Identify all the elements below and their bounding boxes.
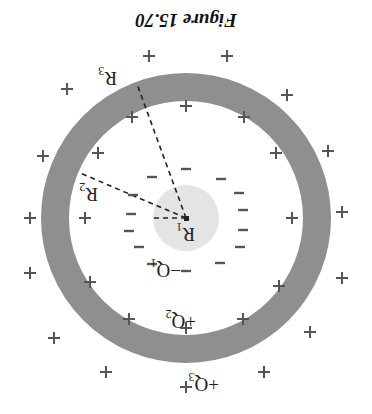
figure-diagram: Figure 15.70 <box>0 0 372 414</box>
label-q2: +Q2 <box>166 307 196 332</box>
label-q1: −Q1 <box>151 256 181 281</box>
center-dot <box>184 216 189 221</box>
label-r3: R3 <box>98 64 117 89</box>
label-q3: +Q3 <box>189 370 219 395</box>
label-r2: R2 <box>79 180 98 205</box>
figure-caption: Figure 15.70 <box>135 10 238 31</box>
